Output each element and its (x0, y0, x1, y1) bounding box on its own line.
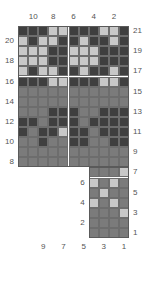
chart-cell-r16-c3[interactable] (99, 77, 109, 87)
chart-cell-r15-c6[interactable] (69, 87, 79, 97)
chart-cell-r15-c9[interactable] (38, 87, 48, 97)
chart-cell-r18-c1[interactable] (119, 56, 129, 66)
chart-cell-r10-c9[interactable] (38, 137, 48, 147)
chart-cell-r9-c10[interactable] (28, 147, 38, 157)
chart-cell-r16-c5[interactable] (79, 77, 89, 87)
chart-cell-r10-c8[interactable] (48, 137, 58, 147)
chart-cell-r17-c5[interactable] (79, 66, 89, 76)
chart-cell-r13-c11[interactable] (18, 107, 28, 117)
chart-cell-r1-c3[interactable] (99, 228, 109, 238)
chart-cell-r18-c11[interactable] (18, 56, 28, 66)
chart-cell-r12-c7[interactable] (58, 117, 68, 127)
chart-cell-r13-c8[interactable] (48, 107, 58, 117)
chart-cell-r21-c10[interactable] (28, 26, 38, 36)
chart-cell-r11-c5[interactable] (79, 127, 89, 137)
chart-cell-r14-c9[interactable] (38, 97, 48, 107)
chart-cell-r20-c4[interactable] (89, 36, 99, 46)
chart-cell-r6-c3[interactable] (99, 178, 109, 188)
chart-cell-r17-c7[interactable] (58, 66, 68, 76)
chart-cell-r8-c11[interactable] (18, 157, 28, 167)
chart-cell-r10-c11[interactable] (18, 137, 28, 147)
chart-cell-r12-c8[interactable] (48, 117, 58, 127)
chart-cell-r12-c9[interactable] (38, 117, 48, 127)
chart-cell-r20-c10[interactable] (28, 36, 38, 46)
chart-cell-r6-c4[interactable] (89, 178, 99, 188)
chart-cell-r14-c5[interactable] (79, 97, 89, 107)
chart-cell-r8-c6[interactable] (69, 157, 79, 167)
chart-cell-r15-c7[interactable] (58, 87, 68, 97)
chart-cell-r19-c7[interactable] (58, 46, 68, 56)
chart-cell-r18-c9[interactable] (38, 56, 48, 66)
chart-cell-r11-c4[interactable] (89, 127, 99, 137)
chart-cell-r5-c4[interactable] (89, 188, 99, 198)
chart-cell-r14-c10[interactable] (28, 97, 38, 107)
chart-cell-r8-c4[interactable] (89, 157, 99, 167)
chart-cell-r15-c1[interactable] (119, 87, 129, 97)
chart-cell-r19-c6[interactable] (69, 46, 79, 56)
chart-cell-r16-c10[interactable] (28, 77, 38, 87)
chart-cell-r10-c7[interactable] (58, 137, 68, 147)
chart-cell-r20-c7[interactable] (58, 36, 68, 46)
chart-cell-r16-c1[interactable] (119, 77, 129, 87)
chart-cell-r1-c2[interactable] (109, 228, 119, 238)
chart-cell-r19-c4[interactable] (89, 46, 99, 56)
chart-cell-r8-c2[interactable] (109, 157, 119, 167)
chart-cell-r9-c1[interactable] (119, 147, 129, 157)
chart-cell-r11-c3[interactable] (99, 127, 109, 137)
chart-cell-r18-c5[interactable] (79, 56, 89, 66)
chart-cell-r12-c6[interactable] (69, 117, 79, 127)
chart-cell-r9-c7[interactable] (58, 147, 68, 157)
chart-cell-r4-c4[interactable] (89, 198, 99, 208)
chart-cell-r17-c2[interactable] (109, 66, 119, 76)
chart-cell-r16-c2[interactable] (109, 77, 119, 87)
chart-cell-r19-c3[interactable] (99, 46, 109, 56)
chart-cell-r9-c9[interactable] (38, 147, 48, 157)
chart-cell-r12-c1[interactable] (119, 117, 129, 127)
chart-cell-r12-c11[interactable] (18, 117, 28, 127)
chart-cell-r21-c8[interactable] (48, 26, 58, 36)
chart-cell-r21-c11[interactable] (18, 26, 28, 36)
chart-cell-r16-c7[interactable] (58, 77, 68, 87)
chart-cell-r10-c1[interactable] (119, 137, 129, 147)
chart-cell-r19-c11[interactable] (18, 46, 28, 56)
chart-cell-r12-c3[interactable] (99, 117, 109, 127)
chart-cell-r20-c8[interactable] (48, 36, 58, 46)
chart-cell-r8-c7[interactable] (58, 157, 68, 167)
chart-cell-r1-c4[interactable] (89, 228, 99, 238)
chart-cell-r8-c10[interactable] (28, 157, 38, 167)
chart-cell-r5-c2[interactable] (109, 188, 119, 198)
chart-cell-r18-c2[interactable] (109, 56, 119, 66)
chart-cell-r4-c3[interactable] (99, 198, 109, 208)
chart-cell-r17-c4[interactable] (89, 66, 99, 76)
chart-cell-r9-c8[interactable] (48, 147, 58, 157)
chart-cell-r20-c1[interactable] (119, 36, 129, 46)
chart-cell-r17-c3[interactable] (99, 66, 109, 76)
chart-cell-r20-c9[interactable] (38, 36, 48, 46)
chart-cell-r15-c8[interactable] (48, 87, 58, 97)
chart-cell-r11-c8[interactable] (48, 127, 58, 137)
chart-cell-r11-c6[interactable] (69, 127, 79, 137)
chart-cell-r19-c5[interactable] (79, 46, 89, 56)
chart-cell-r9-c2[interactable] (109, 147, 119, 157)
chart-cell-r20-c3[interactable] (99, 36, 109, 46)
chart-cell-r7-c3[interactable] (99, 167, 109, 177)
chart-cell-r13-c9[interactable] (38, 107, 48, 117)
chart-cell-r18-c6[interactable] (69, 56, 79, 66)
chart-cell-r5-c1[interactable] (119, 188, 129, 198)
chart-cell-r19-c2[interactable] (109, 46, 119, 56)
chart-cell-r11-c1[interactable] (119, 127, 129, 137)
chart-cell-r2-c4[interactable] (89, 218, 99, 228)
chart-cell-r21-c4[interactable] (89, 26, 99, 36)
chart-cell-r21-c9[interactable] (38, 26, 48, 36)
chart-cell-r9-c6[interactable] (69, 147, 79, 157)
chart-cell-r17-c11[interactable] (18, 66, 28, 76)
chart-cell-r18-c3[interactable] (99, 56, 109, 66)
chart-cell-r21-c3[interactable] (99, 26, 109, 36)
chart-cell-r15-c5[interactable] (79, 87, 89, 97)
chart-cell-r18-c10[interactable] (28, 56, 38, 66)
chart-cell-r13-c2[interactable] (109, 107, 119, 117)
chart-cell-r3-c2[interactable] (109, 208, 119, 218)
chart-cell-r9-c4[interactable] (89, 147, 99, 157)
chart-cell-r4-c2[interactable] (109, 198, 119, 208)
chart-cell-r2-c3[interactable] (99, 218, 109, 228)
